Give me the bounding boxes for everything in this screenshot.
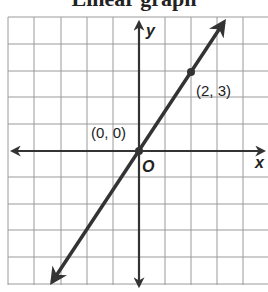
origin-label: O <box>142 158 155 175</box>
y-axis-label: y <box>145 22 156 39</box>
point-label-2-3: (2, 3) <box>196 82 231 99</box>
x-axis-label: x <box>254 154 265 171</box>
point-label-origin: (0, 0) <box>91 124 126 141</box>
coordinate-graph: y x O (0, 0) (2, 3) <box>0 0 268 292</box>
point-origin <box>135 147 143 155</box>
point-2-3 <box>187 68 195 76</box>
